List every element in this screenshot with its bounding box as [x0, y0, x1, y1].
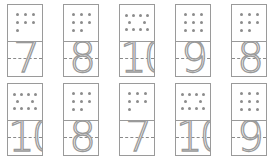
dot-icon: [240, 29, 243, 32]
dot-icon: [188, 93, 191, 96]
dot-frame: [63, 83, 99, 120]
dot-frame: [231, 83, 267, 120]
tracing-frame: 10: [175, 120, 211, 156]
dot-icon: [27, 107, 30, 110]
tracing-frame: 9: [175, 41, 211, 77]
dot-icon: [248, 92, 251, 95]
dot-icon: [144, 92, 147, 95]
tracing-frame: 8: [63, 41, 99, 77]
dot-icon: [248, 21, 251, 24]
tracing-frame: 10: [7, 120, 43, 156]
dot-icon: [16, 29, 19, 32]
dot-icon: [128, 108, 131, 111]
dot-icon: [88, 100, 91, 103]
dot-frame: [175, 83, 211, 120]
dot-icon: [184, 100, 187, 103]
number-card: 10: [119, 4, 155, 76]
dot-icon: [200, 13, 203, 16]
dot-icon: [143, 21, 146, 24]
dot-icon: [256, 13, 259, 16]
dot-icon: [34, 93, 37, 96]
tracing-frame: 9: [231, 120, 267, 156]
number-card: 8: [63, 83, 99, 155]
dot-icon: [192, 13, 195, 16]
dot-icon: [20, 93, 23, 96]
dot-icon: [144, 100, 147, 103]
dot-icon: [199, 100, 202, 103]
number-card: 10: [175, 83, 211, 155]
dot-icon: [80, 92, 83, 95]
dot-frame: [7, 83, 43, 120]
dot-icon: [248, 29, 251, 32]
dot-icon: [72, 29, 75, 32]
tracing-numeral: 9: [232, 120, 266, 156]
dot-icon: [80, 21, 83, 24]
dot-icon: [240, 13, 243, 16]
dot-icon: [132, 28, 135, 31]
dot-icon: [34, 107, 37, 110]
dot-icon: [139, 14, 142, 17]
tracing-frame: 8: [231, 41, 267, 77]
dot-icon: [256, 92, 259, 95]
dot-icon: [240, 92, 243, 95]
dot-icon: [13, 93, 16, 96]
dot-icon: [195, 107, 198, 110]
tracing-numeral: 10: [8, 120, 42, 156]
dot-icon: [136, 92, 139, 95]
tracing-numeral: 7: [120, 120, 154, 156]
number-card: 7: [7, 4, 43, 76]
dot-icon: [195, 93, 198, 96]
dot-icon: [240, 21, 243, 24]
dot-icon: [125, 28, 128, 31]
dot-icon: [256, 108, 259, 111]
dot-icon: [31, 100, 34, 103]
dot-icon: [72, 92, 75, 95]
dot-icon: [240, 108, 243, 111]
tracing-numeral: 8: [64, 120, 98, 156]
dot-icon: [192, 21, 195, 24]
number-card: 7: [119, 83, 155, 155]
dot-icon: [128, 21, 131, 24]
tracing-numeral: 10: [176, 120, 210, 156]
dot-icon: [184, 29, 187, 32]
dot-icon: [188, 107, 191, 110]
number-card: 10: [7, 83, 43, 155]
dot-icon: [202, 107, 205, 110]
dot-icon: [72, 13, 75, 16]
dot-icon: [256, 100, 259, 103]
dot-icon: [139, 28, 142, 31]
dot-icon: [200, 29, 203, 32]
dot-icon: [240, 100, 243, 103]
dot-icon: [192, 29, 195, 32]
dot-icon: [88, 92, 91, 95]
tracing-frame: 8: [63, 120, 99, 156]
dot-frame: [63, 4, 99, 41]
tracing-numeral: 7: [8, 41, 42, 77]
tracing-numeral: 8: [232, 41, 266, 77]
dot-icon: [184, 21, 187, 24]
dot-icon: [181, 107, 184, 110]
tracing-frame: 10: [119, 41, 155, 77]
dot-icon: [125, 14, 128, 17]
dot-icon: [248, 13, 251, 16]
dot-icon: [248, 108, 251, 111]
number-card: 8: [231, 4, 267, 76]
dot-icon: [132, 14, 135, 17]
dot-icon: [80, 29, 83, 32]
number-card: 9: [231, 83, 267, 155]
dot-icon: [72, 108, 75, 111]
dot-icon: [16, 13, 19, 16]
dot-frame: [175, 4, 211, 41]
dot-icon: [24, 13, 27, 16]
dot-icon: [16, 100, 19, 103]
number-card: 9: [175, 4, 211, 76]
dot-icon: [184, 13, 187, 16]
tracing-frame: 7: [119, 120, 155, 156]
dot-icon: [88, 13, 91, 16]
dot-icon: [13, 107, 16, 110]
tracing-numeral: 9: [176, 41, 210, 77]
dot-frame: [119, 4, 155, 41]
dot-frame: [231, 4, 267, 41]
tracing-numeral: 8: [64, 41, 98, 77]
dot-icon: [202, 93, 205, 96]
